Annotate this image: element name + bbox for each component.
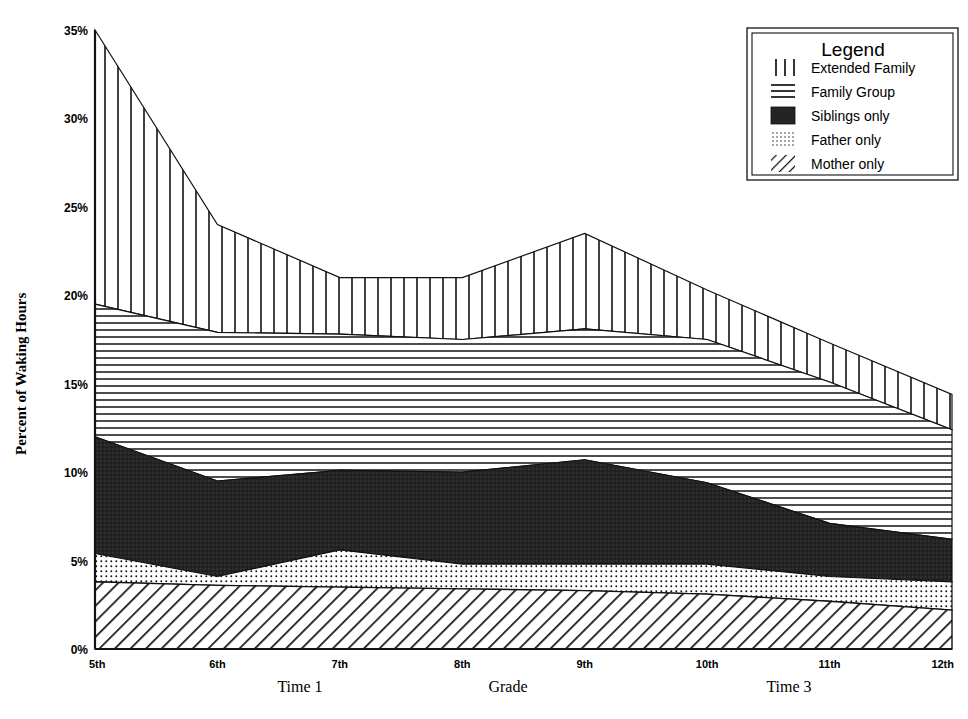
y-axis-tick-label: 10% [64,466,88,480]
x-axis-tick-label: 5th [89,658,106,670]
legend-item: Mother only [771,155,884,172]
legend-swatch-dots-icon [771,131,795,148]
legend-swatch-vertical-lines-icon [771,59,795,76]
legend-item-label: Extended Family [811,60,915,76]
x-axis-tick-label: 10th [696,658,719,670]
legend: Legend Extended FamilyFamily GroupSiblin… [747,28,958,180]
x-axis-tick-label: 7th [332,658,349,670]
x-axis-title: Grade [488,678,527,695]
legend-item: Family Group [771,83,895,100]
y-axis-tick-label: 0% [71,643,89,657]
chart-container: 35%30%25%20%15%10%5%0% 5th6th7th8th9th10… [0,0,968,719]
annotation-time3: Time 3 [766,678,811,695]
legend-item-label: Siblings only [811,108,890,124]
x-axis-tick-label: 6th [209,658,226,670]
x-axis-tick-label: 9th [576,658,593,670]
y-axis-title: Percent of Waking Hours [13,292,29,455]
legend-swatch-horizontal-lines-icon [771,83,795,100]
annotation-time1: Time 1 [277,678,322,695]
y-axis-tick-label: 5% [71,555,89,569]
y-axis-tick-label: 35% [64,24,88,38]
x-axis-tick-label: 12th [931,658,954,670]
x-axis-tick-label: 11th [819,658,841,670]
y-axis-tick-label: 25% [64,201,88,215]
legend-swatch-solid-dark-icon [771,107,795,124]
legend-item: Father only [771,131,881,148]
legend-item: Siblings only [771,107,890,124]
y-axis-tick-label: 20% [64,289,88,303]
stacked-area-chart: 35%30%25%20%15%10%5%0% 5th6th7th8th9th10… [0,0,968,719]
legend-swatch-diagonal-hatch-icon [771,155,795,172]
legend-item: Extended Family [771,59,915,76]
legend-title: Legend [821,39,884,60]
legend-item-label: Father only [811,132,881,148]
x-axis-tick-label: 8th [454,658,471,670]
legend-item-label: Family Group [811,84,895,100]
legend-item-label: Mother only [811,156,884,172]
y-axis-tick-label: 15% [64,378,88,392]
y-axis-tick-label: 30% [64,112,88,126]
